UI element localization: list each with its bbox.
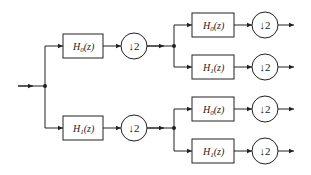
filter-label: H1(z) (72, 123, 95, 136)
junction-dot (43, 84, 47, 88)
filter-label: H0(z) (202, 104, 225, 117)
filter-label: H1(z) (202, 62, 225, 75)
decimator-label: ↓2 (260, 145, 271, 157)
filter-label: H0(z) (202, 20, 225, 33)
filter-label: H1(z) (202, 146, 225, 159)
decimator-label: ↓2 (129, 122, 140, 134)
filter-label: H0(z) (72, 41, 95, 54)
decimator-label: ↓2 (260, 103, 271, 115)
decimator-label: ↓2 (260, 61, 271, 73)
filter-bank-diagram: H0(z) ↓2 H1(z) ↓2 H0(z) ↓2 H1(z) ↓2 H0(z… (0, 0, 311, 175)
decimator-label: ↓2 (129, 40, 140, 52)
decimator-label: ↓2 (260, 19, 271, 31)
junction-dot (172, 44, 176, 48)
junction-dot (172, 126, 176, 130)
